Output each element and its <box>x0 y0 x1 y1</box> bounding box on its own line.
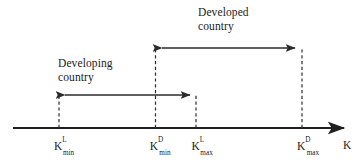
tick-label-k-d-max: KDmax <box>297 139 323 155</box>
tick-label-k-l-min-subscript: min <box>63 149 74 157</box>
developing-country-label: Developing country <box>58 57 113 84</box>
tick-label-k-d-min-superscript: D <box>158 136 163 144</box>
tick-label-k-l-min-superscript: L <box>62 136 66 144</box>
tick-label-k-l-max-superscript: L <box>200 136 204 144</box>
developed-country-label-line2: country <box>198 20 249 34</box>
tick-label-k-d-min: KDmin <box>150 139 175 155</box>
tick-label-k-d-min-subscript: min <box>159 149 170 157</box>
capital-threshold-diagram: Developing country Developed country KLm… <box>0 0 364 168</box>
tick-label-k-l-max: KLmax <box>191 139 216 155</box>
axis-label-k: K <box>343 139 351 151</box>
developed-country-label-line1: Developed <box>198 6 249 18</box>
tick-label-k-l-max-subscript: max <box>200 149 212 157</box>
developed-country-label: Developed country <box>198 6 249 33</box>
tick-label-k-d-max-superscript: D <box>305 136 310 144</box>
developing-country-label-line1: Developing <box>58 57 113 69</box>
tick-label-k-d-max-subscript: max <box>307 149 319 157</box>
tick-label-k-l-min: KLmin <box>54 139 78 155</box>
developing-country-label-line2: country <box>58 71 113 85</box>
